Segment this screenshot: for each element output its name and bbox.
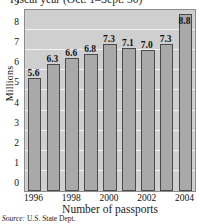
y-axis-tick-label: 0 — [14, 178, 19, 188]
bar — [179, 14, 193, 191]
y-axis-tick-label: 6 — [14, 57, 19, 67]
y-axis-tick-label: 8 — [14, 17, 19, 27]
bar — [47, 64, 61, 191]
chart-title: Fiscal year (Oct. 1–Sept. 30) — [10, 0, 190, 5]
bar — [160, 44, 174, 191]
y-axis-tick-label: 7 — [14, 37, 19, 47]
y-axis-tick-label: 2 — [14, 138, 19, 148]
source-text: U.S. State Dept. — [27, 214, 76, 223]
bar — [103, 44, 117, 191]
y-axis-tick-label: 5 — [14, 77, 19, 87]
bar — [65, 58, 79, 191]
bar — [141, 50, 155, 191]
source-note: Source: U.S. State Dept. — [2, 214, 75, 223]
plot-area — [24, 9, 196, 192]
bar — [122, 48, 136, 191]
bar — [28, 78, 42, 191]
y-axis-tick-label: 3 — [14, 118, 19, 128]
y-axis-title: Millions — [4, 54, 15, 114]
bar — [84, 54, 98, 191]
y-axis-tick-label: 1 — [14, 158, 19, 168]
y-axis-tick-label: 4 — [14, 98, 19, 108]
chart-figure: Fiscal year (Oct. 1–Sept. 30) 5.66.36.66… — [0, 0, 199, 224]
bar-series — [25, 10, 195, 191]
source-label: Source: — [2, 214, 25, 223]
y-axis-tick-label: 9 — [14, 0, 19, 7]
